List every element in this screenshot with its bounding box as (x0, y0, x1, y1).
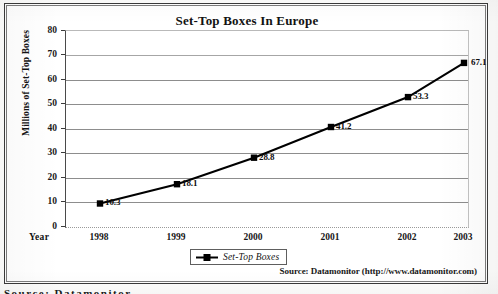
data-label-1999: 18.1 (182, 178, 197, 188)
y-tick-label-70: 70 (29, 49, 57, 59)
x-tick-label-2000: 2000 (244, 232, 263, 242)
y-tick-label-0: 0 (29, 221, 57, 231)
data-label-2000: 28.8 (259, 152, 274, 162)
x-axis-tick-group: Year 1998 1999 2000 2001 2002 2003 (5, 232, 489, 246)
x-tick-label-2003: 2003 (454, 232, 473, 242)
marker-2003 (461, 60, 467, 66)
y-tick-label-60: 60 (29, 74, 57, 84)
x-tick-label-2001: 2001 (321, 232, 340, 242)
y-tick-label-30: 30 (29, 147, 57, 157)
marker-2000 (251, 155, 257, 161)
y-tick-label-20: 20 (29, 172, 57, 182)
legend-line-marker-icon (196, 253, 218, 262)
marker-2001 (328, 124, 334, 130)
x-tick-label-2002: 2002 (398, 232, 417, 242)
x-tick-label-1998: 1998 (90, 232, 109, 242)
data-label-2003: 67.1 (471, 57, 486, 67)
series-set-top-boxes (66, 31, 470, 229)
marker-2002 (405, 94, 411, 100)
chart-legend[interactable]: Set-Top Boxes (190, 249, 287, 265)
y-tick-label-40: 40 (29, 123, 57, 133)
y-tick-label-10: 10 (29, 196, 57, 206)
y-tick-label-50: 50 (29, 98, 57, 108)
data-label-2002: 53.3 (413, 91, 428, 101)
series-markers (97, 60, 467, 207)
marker-1999 (174, 181, 180, 187)
y-tick-label-80: 80 (29, 25, 57, 35)
chart-title: Set-Top Boxes In Europe (5, 13, 489, 29)
plot-area: 10.3 18.1 28.8 41.2 53.3 67.1 (65, 30, 469, 228)
data-label-1998: 10.3 (105, 197, 120, 207)
clipped-caption-text: Source: Datamonitor (4, 287, 132, 294)
marker-1998 (97, 200, 103, 206)
x-axis-title: Year (29, 232, 49, 242)
series-line-set-top-boxes (100, 63, 464, 204)
scanned-page: Set-Top Boxes In Europe Millions of Set-… (0, 0, 498, 294)
data-label-2001: 41.2 (336, 121, 351, 131)
legend-label-set-top-boxes: Set-Top Boxes (223, 252, 279, 262)
x-tick-label-1999: 1999 (167, 232, 186, 242)
chart-figure-frame: Set-Top Boxes In Europe Millions of Set-… (4, 3, 488, 284)
source-note: Source: Datamonitor (http://www.datamoni… (280, 266, 477, 276)
